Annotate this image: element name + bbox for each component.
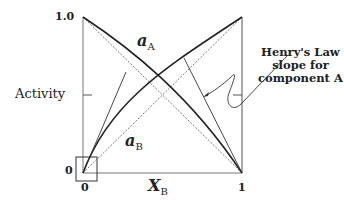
curve-b-label-sub: B: [135, 141, 142, 152]
x-axis-title: XB: [148, 176, 168, 197]
henry-line-b: [83, 72, 126, 173]
annotation-line-3: component A: [258, 72, 343, 85]
henry-law-annotation: Henry's Law slope for component A: [258, 46, 343, 85]
x-tick-right: 1: [238, 181, 246, 194]
arrow-head-icon: [203, 92, 209, 97]
curve-b-label: aB: [125, 131, 143, 152]
y-tick-bottom: 0: [65, 164, 73, 177]
curve-a-label-sub: A: [147, 41, 154, 52]
x-tick-left: 0: [81, 181, 89, 194]
curve-a-label: aA: [137, 31, 155, 52]
activity-diagram: [0, 0, 344, 209]
x-axis-title-main: X: [148, 176, 160, 195]
y-tick-top: 1.0: [55, 10, 74, 23]
curve-a-label-main: a: [137, 31, 147, 50]
y-axis-title: Activity: [15, 86, 65, 101]
origin-box: [76, 157, 97, 181]
curve-b-label-main: a: [125, 131, 135, 150]
x-axis-title-sub: B: [160, 186, 167, 197]
